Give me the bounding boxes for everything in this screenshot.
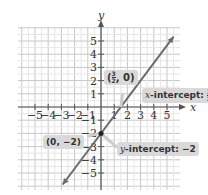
svg-text:2: 2 [124,109,131,122]
svg-text:5: 5 [90,35,97,48]
x-intercept-annotation: x-intercept: 32 [142,88,208,103]
svg-text:4: 4 [150,109,157,122]
point-label-x-intercept: (32, 0) [104,70,138,85]
point-label-y-intercept: (0, −2) [43,135,84,149]
svg-text:1: 1 [90,88,97,101]
svg-text:y: y [97,9,105,22]
svg-text:5: 5 [164,109,171,122]
svg-text:2: 2 [90,75,97,88]
svg-text:3: 3 [90,61,97,74]
svg-text:−5: −5 [81,167,97,180]
y-intercept-annotation: y-intercept: −2 [117,142,199,156]
svg-text:4: 4 [90,48,97,61]
svg-text:−1: −1 [81,114,97,127]
svg-text:3: 3 [137,109,144,122]
